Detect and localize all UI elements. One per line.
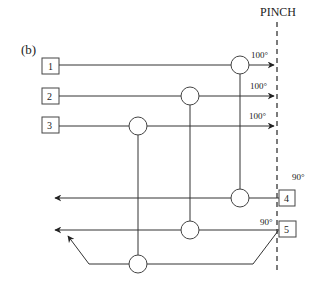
cold-stream-4: 4 90°: [55, 172, 305, 206]
exchanger-2-hot: [181, 87, 199, 105]
stream-temp-3: 100°: [249, 111, 267, 121]
exchanger-3-hot: [129, 117, 147, 135]
stream-temp-4: 90°: [292, 172, 305, 182]
stream-temp-5: 90°: [260, 217, 273, 227]
cold-stream-5: 5 90°: [55, 217, 296, 264]
exchanger-1-hot: [231, 56, 249, 74]
exchanger-1-cold: [231, 189, 249, 207]
stream-temp-2: 100°: [250, 81, 268, 91]
stream-label-1: 1: [48, 61, 53, 72]
hot-stream-2: 2 100°: [42, 81, 274, 104]
heat-exchanger-network-diagram: (b) PINCH 1 100° 2 100° 3 100° 4 90° 5 9…: [0, 0, 320, 286]
panel-label: (b): [21, 42, 36, 57]
stream-label-3: 3: [47, 120, 52, 131]
stream-temp-1: 100°: [251, 50, 269, 60]
stream-label-4: 4: [284, 193, 289, 204]
stream-label-5: 5: [284, 224, 289, 235]
hot-stream-3: 3 100°: [42, 111, 274, 133]
stream-label-2: 2: [47, 91, 52, 102]
stream-5-split-branch: [68, 231, 278, 264]
pinch-label: PINCH: [260, 5, 296, 19]
exchanger-2-cold: [181, 221, 199, 239]
exchanger-3-cold: [129, 255, 147, 273]
